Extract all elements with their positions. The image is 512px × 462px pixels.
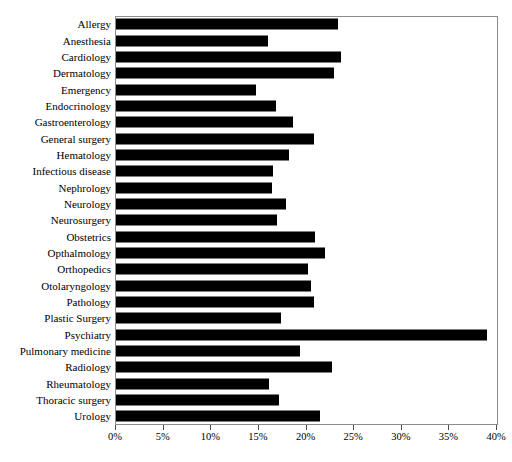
bar-row: Gastroenterology	[0, 114, 512, 130]
bar	[116, 297, 314, 308]
bar-track	[116, 376, 497, 392]
x-axis-tick-label: 20%	[296, 431, 315, 443]
category-label: Neurosurgery	[51, 214, 111, 226]
bar	[116, 280, 311, 291]
bar	[116, 313, 281, 324]
category-label: Infectious disease	[33, 165, 112, 177]
category-label: Hematology	[57, 149, 111, 161]
bar-row: Psychiatry	[0, 327, 512, 343]
category-label: Dermatology	[53, 67, 111, 79]
x-axis-tick	[401, 425, 402, 430]
x-axis-tick	[258, 425, 259, 430]
bar-track	[116, 261, 497, 277]
bar-track	[116, 32, 497, 48]
x-axis-tick-label: 5%	[156, 431, 170, 443]
bar-row: Orthopedics	[0, 261, 512, 277]
category-label: General surgery	[41, 133, 111, 145]
category-label: Urology	[74, 410, 111, 422]
bar-track	[116, 359, 497, 375]
bar-row: Radiology	[0, 359, 512, 375]
bar-track	[116, 310, 497, 326]
category-label: Pulmonary medicine	[20, 345, 111, 357]
bar	[116, 346, 300, 357]
bar-track	[116, 212, 497, 228]
bar-row: Endocrinology	[0, 98, 512, 114]
bar	[116, 149, 289, 160]
bar-chart: AllergyAnesthesiaCardiologyDermatologyEm…	[0, 0, 512, 462]
bar-track	[116, 114, 497, 130]
bar-track	[116, 130, 497, 146]
bar-row: Allergy	[0, 16, 512, 32]
category-label: Cardiology	[62, 51, 112, 63]
x-axis-tick-label: 30%	[391, 431, 410, 443]
x-axis-tick-label: 40%	[486, 431, 505, 443]
bar	[116, 35, 268, 46]
bar-track	[116, 49, 497, 65]
bar-row: Otolaryngology	[0, 278, 512, 294]
bar-row: Obstetrics	[0, 228, 512, 244]
bar-track	[116, 408, 497, 424]
bar-row: Opthalmology	[0, 245, 512, 261]
bar	[116, 84, 256, 95]
bar	[116, 247, 325, 258]
bar-track	[116, 343, 497, 359]
bar-track	[116, 98, 497, 114]
bar-track	[116, 245, 497, 261]
category-label: Anesthesia	[63, 35, 111, 47]
category-label: Opthalmology	[47, 247, 111, 259]
x-axis-tick-label: 35%	[439, 431, 458, 443]
bar	[116, 395, 279, 406]
x-axis-tick	[306, 425, 307, 430]
bar-row: Thoracic surgery	[0, 392, 512, 408]
bar-row: Pathology	[0, 294, 512, 310]
bar-row: Rheumatology	[0, 376, 512, 392]
bar	[116, 411, 320, 422]
bar-row: Anesthesia	[0, 32, 512, 48]
bar-row: Hematology	[0, 147, 512, 163]
bar	[116, 231, 315, 242]
bar	[116, 362, 332, 373]
category-label: Thoracic surgery	[36, 394, 111, 406]
bar-row: Nephrology	[0, 179, 512, 195]
category-label: Rheumatology	[46, 378, 111, 390]
bar	[116, 378, 269, 389]
category-label: Orthopedics	[57, 263, 111, 275]
category-label: Otolaryngology	[41, 280, 111, 292]
x-axis-tick	[163, 425, 164, 430]
category-label: Nephrology	[58, 182, 111, 194]
x-axis-tick	[115, 425, 116, 430]
bar-track	[116, 163, 497, 179]
bar-rows-container: AllergyAnesthesiaCardiologyDermatologyEm…	[0, 16, 512, 425]
category-label: Emergency	[61, 84, 111, 96]
bar	[116, 166, 273, 177]
bar	[116, 51, 341, 62]
bar-track	[116, 392, 497, 408]
bar	[116, 19, 338, 30]
bar-track	[116, 16, 497, 32]
category-label: Neurology	[64, 198, 111, 210]
bar-row: Infectious disease	[0, 163, 512, 179]
category-label: Radiology	[65, 361, 111, 373]
bar-track	[116, 65, 497, 81]
bar-row: Dermatology	[0, 65, 512, 81]
bar-track	[116, 147, 497, 163]
x-axis: 0%5%10%15%20%25%30%35%40%	[115, 425, 498, 455]
x-axis-tick-label: 10%	[201, 431, 220, 443]
x-axis-tick-label: 25%	[344, 431, 363, 443]
category-label: Pathology	[66, 296, 111, 308]
x-axis-tick	[210, 425, 211, 430]
bar-row: Urology	[0, 408, 512, 424]
bar	[116, 117, 293, 128]
bar	[116, 68, 334, 79]
x-axis-tick	[353, 425, 354, 430]
bar-track	[116, 327, 497, 343]
bar-row: Neurosurgery	[0, 212, 512, 228]
bar-track	[116, 278, 497, 294]
category-label: Gastroenterology	[35, 116, 111, 128]
bar	[116, 198, 286, 209]
bar	[116, 182, 272, 193]
bar	[116, 264, 308, 275]
bar	[116, 215, 277, 226]
category-label: Psychiatry	[65, 329, 111, 341]
bar-row: General surgery	[0, 130, 512, 146]
